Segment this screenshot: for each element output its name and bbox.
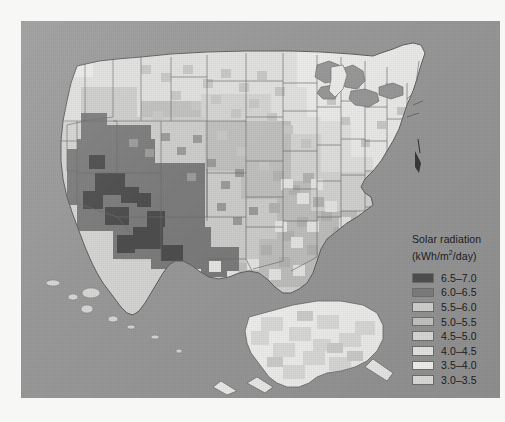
legend-label: 5.0–5.5 — [441, 316, 477, 328]
legend-label: 4.0–4.5 — [441, 345, 477, 357]
legend-swatch — [412, 361, 434, 371]
legend-label: 3.5–4.0 — [441, 359, 477, 371]
legend-title-line2: (kWh/m2/day) — [412, 246, 500, 263]
legend-row: 4.5–5.0 — [412, 329, 500, 344]
legend-swatch — [412, 317, 434, 327]
legend-swatch — [412, 288, 434, 298]
legend-entries: 6.5–7.06.0–6.55.5–6.05.0–5.54.5–5.04.0–4… — [412, 271, 500, 388]
legend-swatch — [412, 346, 434, 356]
legend-row: 6.0–6.5 — [412, 285, 500, 300]
legend-label: 3.0–3.5 — [441, 374, 477, 386]
legend-title-line1: Solar radiation — [412, 233, 500, 246]
legend-row: 6.5–7.0 — [412, 271, 500, 286]
legend-swatch — [412, 302, 434, 312]
coast-detail — [407, 101, 423, 117]
legend-unit-prefix: (kWh/m — [412, 250, 449, 262]
figure-page: Solar radiation (kWh/m2/day) 6.5–7.06.0–… — [0, 0, 505, 422]
map-panel: Solar radiation (kWh/m2/day) 6.5–7.06.0–… — [21, 21, 500, 398]
legend-swatch — [412, 331, 434, 341]
legend-label: 5.5–6.0 — [441, 301, 477, 313]
legend-row: 4.0–4.5 — [412, 343, 500, 358]
legend-swatch — [412, 273, 434, 283]
legend-row: 3.5–4.0 — [412, 358, 500, 373]
legend-row: 5.5–6.0 — [412, 300, 500, 315]
legend-label: 6.5–7.0 — [441, 272, 477, 284]
legend-unit-suffix: /day) — [453, 250, 477, 262]
legend-swatch — [412, 375, 434, 385]
legend-label: 6.0–6.5 — [441, 286, 477, 298]
legend-row: 5.0–5.5 — [412, 314, 500, 329]
chesapeake-marker — [415, 139, 421, 173]
map-legend: Solar radiation (kWh/m2/day) 6.5–7.06.0–… — [412, 233, 500, 387]
legend-row: 3.0–3.5 — [412, 373, 500, 388]
legend-label: 4.5–5.0 — [441, 330, 477, 342]
